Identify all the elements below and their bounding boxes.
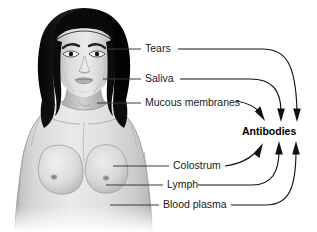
label-mucous-membranes: Mucous membranes bbox=[145, 96, 240, 108]
label-saliva: Saliva bbox=[145, 72, 174, 84]
diagram-canvas: Tears Saliva Mucous membranes Colostrum … bbox=[0, 0, 317, 232]
label-colostrum: Colostrum bbox=[173, 159, 221, 171]
label-lymph: Lymph bbox=[167, 178, 198, 190]
eye-right bbox=[89, 51, 105, 57]
arrowhead-saliva bbox=[277, 109, 285, 123]
eye-left bbox=[63, 51, 79, 57]
flow-arrows-top bbox=[178, 49, 301, 122]
arrowhead-blood-plasma bbox=[292, 141, 300, 155]
flow-arrow-colostrum bbox=[225, 149, 259, 166]
label-tears: Tears bbox=[145, 42, 171, 54]
flow-arrow-blood-plasma bbox=[231, 150, 296, 205]
antibody-sources-diagram: Tears Saliva Mucous membranes Colostrum … bbox=[0, 0, 317, 232]
woman-illustration bbox=[10, 8, 160, 232]
arrowhead-colostrum bbox=[254, 143, 263, 158]
flow-arrows-bottom bbox=[198, 141, 300, 205]
arrowhead-tears bbox=[293, 109, 301, 123]
arrowhead-lymph bbox=[275, 141, 283, 155]
antibodies-label: Antibodies bbox=[242, 125, 296, 137]
label-blood-plasma: Blood plasma bbox=[163, 198, 227, 210]
